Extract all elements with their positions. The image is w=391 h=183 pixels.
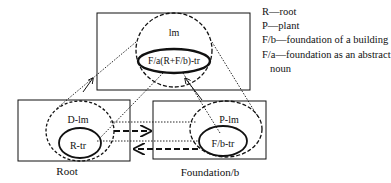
d-lm-label: D-lm: [67, 114, 88, 125]
d-lm-ellipse: [46, 101, 114, 161]
foundation-title: Foundation/b: [181, 166, 240, 178]
projection-line: [56, 42, 136, 109]
p-lm-label: P-lm: [219, 114, 238, 125]
root-box: [18, 100, 130, 161]
legend-item-foundation-building: F/b—foundation of a building: [262, 33, 362, 47]
legend-item-foundation-abstract-cont: noun: [262, 62, 362, 76]
legend: R—root P—plant F/b—foundation of a build…: [262, 5, 362, 76]
legend-item-root: R—root: [262, 5, 362, 19]
projection-line: [212, 42, 258, 117]
top-box: [97, 13, 250, 90]
top-tr-label: F/a(R+F/b)-tr: [148, 56, 200, 66]
r-tr-label: R-tr: [70, 140, 86, 151]
legend-item-plant: P—plant: [262, 19, 362, 33]
legend-item-foundation-abstract: F/a—foundation as an abstract: [262, 48, 362, 62]
projection-line: [100, 73, 163, 138]
p-lm-ellipse: [190, 101, 262, 157]
top-lm-label: lm: [169, 27, 180, 38]
root-title: Root: [56, 165, 77, 177]
f-b-tr-label: F/b-tr: [212, 138, 235, 149]
